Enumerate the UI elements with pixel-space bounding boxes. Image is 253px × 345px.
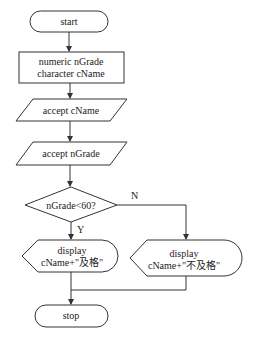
declare-line-1: numeric nGrade: [39, 56, 104, 67]
flowchart-canvas: start numeric nGrade character cName acc…: [0, 0, 253, 345]
decision-diamond: nGrade<60?: [25, 187, 117, 222]
input-name-parallelogram: accept cName: [16, 99, 127, 121]
display-pass-line-1: display: [58, 245, 87, 256]
input-grade-parallelogram: accept nGrade: [16, 142, 127, 165]
stop-terminator: stop: [35, 305, 108, 327]
start-terminator: start: [30, 11, 108, 32]
declare-process-box: numeric nGrade character cName: [19, 52, 124, 83]
stop-label: stop: [63, 310, 80, 321]
start-label: start: [60, 16, 77, 27]
yes-branch-label: Y: [77, 224, 84, 235]
no-branch-label: N: [131, 190, 138, 201]
decision-label: nGrade<60?: [46, 200, 96, 211]
display-fail-line-1: display: [170, 248, 199, 259]
arrow-no-branch: [117, 205, 186, 239]
input-name-label: accept cName: [43, 105, 100, 116]
declare-line-2: character cName: [37, 68, 105, 79]
input-grade-label: accept nGrade: [42, 148, 100, 159]
display-fail-line-2: cName+"不及格": [148, 259, 220, 271]
merge-line: [71, 276, 186, 290]
display-pass-line-2: cName+"及格": [41, 256, 103, 268]
display-pass-shape: display cName+"及格": [22, 240, 118, 272]
display-fail-shape: display cName+"不及格": [130, 240, 242, 276]
